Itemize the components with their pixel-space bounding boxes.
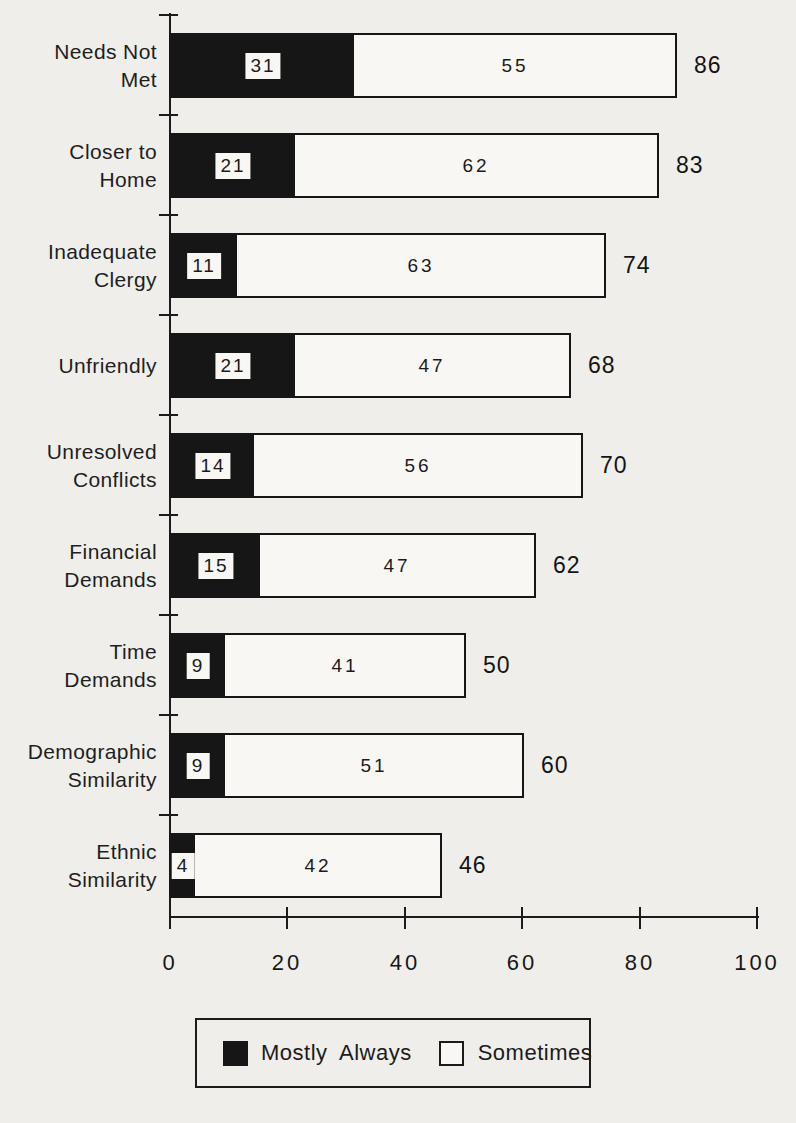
category-label-line: Ethnic	[96, 838, 157, 866]
legend-swatch-sometimes	[439, 1041, 464, 1066]
category-label-line: Home	[99, 166, 157, 194]
bar-row-6: 941	[169, 633, 466, 698]
bar-row-5: 1547	[169, 533, 536, 598]
value-label-sometimes: 42	[304, 855, 331, 877]
value-label-sometimes: 47	[418, 355, 445, 377]
bar-row-8: 442	[169, 833, 442, 898]
total-label: 83	[676, 133, 704, 198]
bar-row-2: 1163	[169, 233, 606, 298]
x-tick-label: 40	[365, 950, 445, 976]
value-label-mostly-always: 4	[172, 853, 195, 879]
value-label-mostly-always: 21	[215, 153, 250, 179]
category-label-line: Similarity	[68, 766, 157, 794]
stacked-bar-chart: 020406080100Needs NotMet315586Closer toH…	[0, 0, 796, 1123]
bar-row-1: 2162	[169, 133, 659, 198]
category-label-line: Similarity	[68, 866, 157, 894]
value-label-sometimes: 63	[407, 255, 434, 277]
category-label: DemographicSimilarity	[0, 733, 157, 798]
category-label-line: Demands	[64, 666, 157, 694]
value-label-sometimes: 55	[501, 55, 528, 77]
legend-label-mostly-always: Mostly Always	[261, 1040, 412, 1066]
x-axis-tick	[521, 907, 523, 929]
value-label-mostly-always: 21	[215, 353, 250, 379]
total-label: 70	[600, 433, 628, 498]
category-label-line: Closer to	[69, 138, 157, 166]
x-tick-label: 20	[247, 950, 327, 976]
legend-label-sometimes: Sometimes	[478, 1040, 593, 1066]
value-label-mostly-always: 31	[245, 53, 280, 79]
x-axis	[169, 916, 759, 918]
category-label-line: Inadequate	[48, 238, 157, 266]
total-label: 74	[623, 233, 651, 298]
total-label: 62	[553, 533, 581, 598]
category-label-line: Clergy	[94, 266, 157, 294]
value-label-mostly-always: 11	[187, 253, 221, 279]
y-axis-tick	[159, 14, 178, 16]
category-label-line: Financial	[69, 538, 157, 566]
category-label: FinancialDemands	[0, 533, 157, 598]
total-label: 68	[588, 333, 616, 398]
value-label-sometimes: 51	[360, 755, 387, 777]
category-label-line: Demands	[64, 566, 157, 594]
total-label: 86	[694, 33, 722, 98]
category-label-line: Unfriendly	[58, 352, 157, 380]
x-tick-label: 80	[600, 950, 680, 976]
category-label-line: Time	[110, 638, 158, 666]
y-axis-tick	[159, 214, 178, 216]
category-label: Closer toHome	[0, 133, 157, 198]
y-axis-tick	[159, 614, 178, 616]
category-label-line: Conflicts	[73, 466, 157, 494]
x-tick-label: 100	[717, 950, 796, 976]
category-label: UnresolvedConflicts	[0, 433, 157, 498]
total-label: 50	[483, 633, 511, 698]
category-label: TimeDemands	[0, 633, 157, 698]
category-label: Unfriendly	[0, 333, 157, 398]
bar-row-4: 1456	[169, 433, 583, 498]
category-label: Needs NotMet	[0, 33, 157, 98]
value-label-mostly-always: 15	[198, 553, 233, 579]
y-axis-tick	[159, 414, 178, 416]
value-label-mostly-always: 9	[187, 653, 210, 679]
category-label-line: Needs Not	[54, 38, 157, 66]
x-tick-label: 60	[482, 950, 562, 976]
value-label-sometimes: 47	[383, 555, 410, 577]
scanned-chart-page: 020406080100Needs NotMet315586Closer toH…	[0, 0, 796, 1123]
value-label-mostly-always: 14	[195, 453, 230, 479]
y-axis-tick	[159, 514, 178, 516]
value-label-sometimes: 56	[404, 455, 431, 477]
y-axis-tick	[159, 314, 178, 316]
category-label-line: Demographic	[28, 738, 157, 766]
legend-swatch-mostly-always	[223, 1041, 248, 1066]
value-label-mostly-always: 9	[187, 753, 210, 779]
category-label: InadequateClergy	[0, 233, 157, 298]
x-axis-tick	[404, 907, 406, 929]
value-label-sometimes: 62	[462, 155, 489, 177]
x-tick-label: 0	[130, 950, 210, 976]
bar-row-0: 3155	[169, 33, 677, 98]
value-label-sometimes: 41	[331, 655, 358, 677]
y-axis-tick	[159, 814, 178, 816]
category-label-line: Unresolved	[47, 438, 157, 466]
bar-row-7: 951	[169, 733, 524, 798]
x-axis-tick	[286, 907, 288, 929]
bar-row-3: 2147	[169, 333, 571, 398]
x-axis-tick	[756, 907, 758, 929]
category-label-line: Met	[121, 66, 157, 94]
x-axis-tick	[169, 907, 171, 929]
legend-box: Mostly Always Sometimes	[195, 1018, 591, 1088]
category-label: EthnicSimilarity	[0, 833, 157, 898]
x-axis-tick	[639, 907, 641, 929]
total-label: 46	[459, 833, 487, 898]
y-axis-tick	[159, 714, 178, 716]
y-axis-tick	[159, 114, 178, 116]
total-label: 60	[541, 733, 569, 798]
